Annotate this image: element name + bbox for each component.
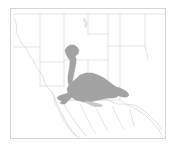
map-figure — [0, 0, 174, 146]
range-map-canvas — [0, 0, 174, 146]
